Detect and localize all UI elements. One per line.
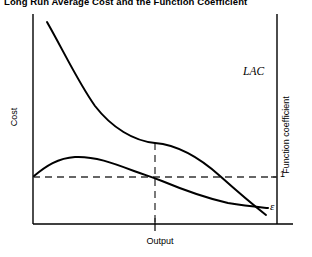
unity-tick-label: 1: [280, 169, 285, 179]
lac-curve-label: LAC: [243, 65, 264, 77]
y-axis-label: Cost: [9, 97, 19, 137]
lac-curve: [47, 22, 266, 215]
epsilon-curve-label: ε: [270, 200, 274, 212]
epsilon-curve: [34, 157, 268, 208]
secondary-y-axis-label: Function coefficient: [281, 55, 291, 215]
plot-area: [0, 0, 312, 257]
x-axis-label: Output: [120, 236, 200, 246]
chart-figure: Long Run Average Cost and the Function C…: [0, 0, 312, 257]
